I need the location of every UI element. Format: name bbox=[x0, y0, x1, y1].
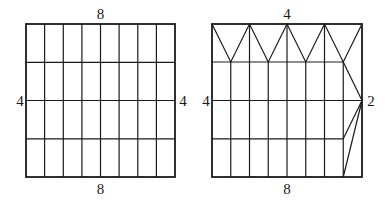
left-left-label: 4 bbox=[16, 93, 24, 109]
diagram-canvas: 8 8 4 4 4 8 4 bbox=[0, 0, 385, 201]
left-bottom-label: 8 bbox=[97, 181, 105, 197]
left-grid-lines bbox=[26, 24, 175, 177]
right-bottom-label: 8 bbox=[283, 181, 291, 197]
right-left-label: 4 bbox=[202, 93, 210, 109]
right-right-label: 2 bbox=[367, 93, 375, 109]
right-figure: 4 8 4 2 bbox=[202, 6, 375, 197]
right-top-label: 4 bbox=[283, 6, 291, 22]
left-figure: 8 8 4 4 bbox=[16, 6, 187, 197]
left-right-label: 4 bbox=[179, 93, 187, 109]
left-top-label: 8 bbox=[97, 6, 105, 22]
right-grid-lines bbox=[212, 24, 362, 177]
